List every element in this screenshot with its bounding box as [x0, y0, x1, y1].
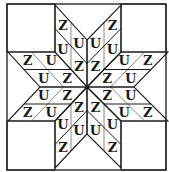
label-left-upper-outer: Z [23, 53, 33, 68]
label-left-lower-side_a: U [38, 88, 50, 103]
center-dot [85, 85, 89, 89]
label-bottom-left-inner: Z [74, 100, 84, 115]
label-right-lower-side_b: U [119, 105, 131, 120]
label-left-upper-side_b: U [46, 53, 58, 68]
label-right-lower-outer: Z [143, 105, 153, 120]
label-right-upper-side_a: U [125, 71, 137, 86]
label-left-lower-side_b: U [46, 105, 58, 120]
label-right-upper-side_b: U [119, 53, 131, 68]
quilt-star-diagram: ZUUZZUUZZUUZZUUZZUUZZUUZZUUZZUUZ [0, 0, 169, 172]
label-top-left-outer: Z [58, 18, 68, 33]
label-bottom-left-side_a: U [57, 117, 69, 132]
label-right-lower-side_a: U [125, 88, 137, 103]
label-bottom-right-inner: Z [91, 100, 101, 115]
label-top-right-side_b: U [90, 36, 102, 51]
background [0, 0, 169, 172]
label-bottom-left-side_b: U [73, 123, 85, 138]
label-top-right-outer: Z [108, 18, 118, 33]
label-top-left-side_b: U [73, 36, 85, 51]
label-bottom-right-side_b: U [90, 123, 102, 138]
label-left-lower-inner: Z [63, 88, 73, 103]
label-left-lower-outer: Z [23, 105, 33, 120]
label-left-upper-side_a: U [38, 71, 50, 86]
label-right-upper-outer: Z [143, 53, 153, 68]
label-top-right-inner: Z [91, 59, 101, 74]
label-right-upper-inner: Z [103, 71, 113, 86]
label-top-left-side_a: U [57, 42, 69, 57]
label-top-left-inner: Z [74, 59, 84, 74]
label-bottom-right-side_a: U [107, 117, 119, 132]
label-right-lower-inner: Z [103, 88, 113, 103]
label-left-upper-inner: Z [63, 71, 73, 86]
label-bottom-left-outer: Z [58, 140, 68, 155]
label-top-right-side_a: U [107, 42, 119, 57]
label-bottom-right-outer: Z [108, 140, 118, 155]
